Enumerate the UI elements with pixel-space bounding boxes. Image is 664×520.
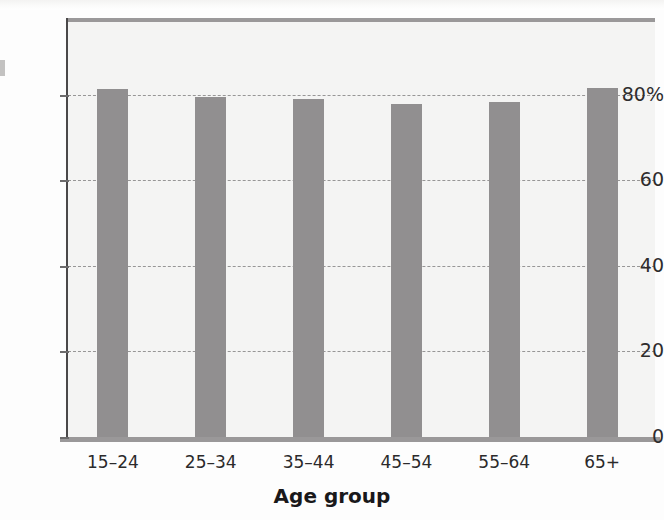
bar-35-44	[293, 99, 324, 437]
bar-45-54	[391, 104, 422, 437]
x-tick-label-0: 15–24	[87, 452, 139, 472]
x-tick-label-4: 55–64	[478, 452, 530, 472]
y-tick-mark-0	[60, 437, 69, 439]
scan-artifact-left-edge	[0, 60, 5, 76]
bar-25-34	[195, 97, 226, 437]
bar-65+	[587, 88, 618, 437]
bars-group	[68, 18, 655, 437]
bar-55-64	[489, 102, 520, 437]
bar-chart-figure: 020406080% 15–2425–3435–4445–5455–6465+ …	[0, 0, 664, 520]
bar-15-24	[97, 89, 128, 437]
x-tick-label-5: 65+	[584, 452, 620, 472]
x-axis-title: Age group	[0, 484, 664, 508]
x-tick-label-1: 25–34	[185, 452, 237, 472]
x-tick-label-2: 35–44	[283, 452, 335, 472]
x-tick-label-3: 45–54	[381, 452, 433, 472]
x-axis-line	[60, 437, 660, 442]
scan-artifact-top	[0, 0, 664, 10]
